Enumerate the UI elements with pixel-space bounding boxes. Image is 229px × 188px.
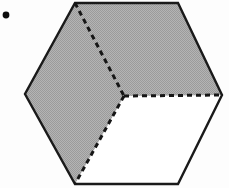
bullet-dot-icon <box>3 12 10 19</box>
figure-container <box>0 0 229 188</box>
hexagon-diagram <box>0 0 229 188</box>
